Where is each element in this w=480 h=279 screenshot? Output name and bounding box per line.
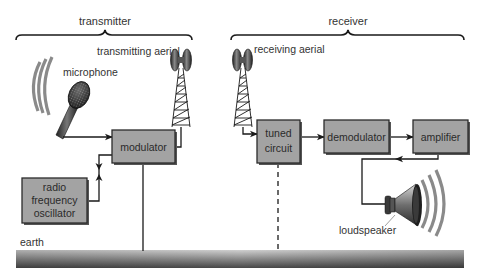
tuned-circuit-label-line-1: tuned [265, 127, 291, 139]
radio-diagram: transmitter receiver transmitting aerial [0, 0, 480, 279]
loudspeaker-sound-waves-icon [422, 170, 444, 236]
microphone-label: microphone [63, 66, 118, 78]
oscillator-label-line-3: oscillator [34, 207, 76, 219]
sound-waves-icon [33, 57, 52, 115]
transmitting-aerial-icon [171, 49, 192, 127]
modulator-block: modulator [112, 130, 177, 165]
transmitter-section: transmitter [16, 15, 192, 40]
amplifier-label: amplifier [421, 131, 461, 143]
receiver-label: receiver [328, 15, 367, 27]
receiver-section: receiver [231, 15, 464, 40]
loudspeaker-label: loudspeaker [339, 224, 397, 236]
earth-label: earth [20, 236, 44, 248]
tuned-circuit-block: tuned circuit [257, 120, 302, 165]
receiving-aerial-label: receiving aerial [254, 43, 325, 55]
demodulator-block: demodulator [324, 120, 391, 155]
tuned-circuit-label-line-2: circuit [265, 142, 293, 154]
transmitting-aerial-label: transmitting aerial [97, 45, 180, 57]
transmitter-brace [16, 30, 192, 40]
transmitter-label: transmitter [79, 15, 131, 27]
oscillator-label-line-2: frequency [31, 194, 78, 206]
receiving-aerial-icon [233, 49, 253, 127]
microphone-icon [56, 78, 94, 139]
receiver-brace [231, 30, 464, 40]
modulator-label: modulator [120, 141, 167, 153]
demodulator-label: demodulator [327, 131, 386, 143]
earth-ground [16, 250, 464, 268]
oscillator-label-line-1: radio [43, 181, 67, 193]
amplifier-block: amplifier [413, 120, 470, 155]
oscillator-block: radio frequency oscillator [22, 178, 89, 225]
